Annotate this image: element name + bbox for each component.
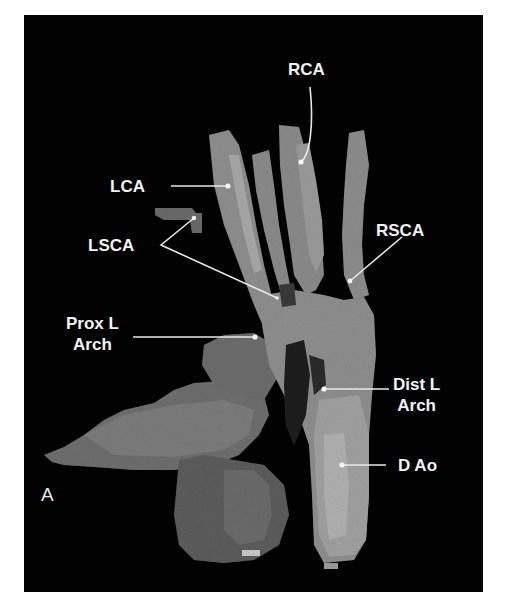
vessel-rendering: [24, 15, 483, 592]
label-dist-l-arch-line1: Dist L: [393, 374, 440, 395]
panel-letter: A: [41, 485, 54, 505]
label-prox-l-arch-line1: Prox L: [66, 313, 119, 334]
label-dist-l-arch: Dist L Arch: [393, 374, 440, 416]
rca-dot: [298, 159, 303, 164]
lsca-dot-upper: [192, 216, 196, 220]
rsca-dot: [348, 279, 353, 284]
label-lsca: LSCA: [88, 235, 134, 256]
label-lca: LCA: [110, 176, 145, 197]
label-prox-l-arch-line2: Arch: [66, 334, 119, 355]
label-rca: RCA: [288, 59, 325, 80]
lca-dot: [225, 183, 230, 188]
dist-l-arch-dot: [321, 386, 326, 391]
lsca-dot-lower: [275, 296, 279, 300]
label-d-ao: D Ao: [398, 455, 437, 476]
label-prox-l-arch: Prox L Arch: [66, 313, 119, 355]
label-rsca: RSCA: [376, 220, 424, 241]
prox-l-arch-dot: [252, 334, 257, 339]
d-ao-dot: [339, 462, 344, 467]
label-dist-l-arch-line2: Arch: [393, 395, 440, 416]
mra-aortic-arch-image: RCA LCA LSCA RSCA Prox L Arch Dist L Arc…: [24, 15, 483, 592]
